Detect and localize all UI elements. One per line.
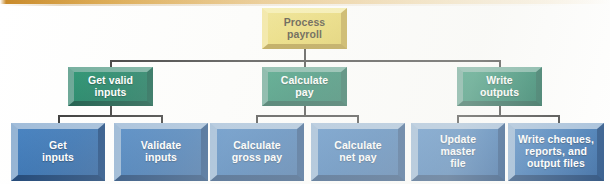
node-label: Calculate gross pay xyxy=(228,140,287,164)
node-calculate-net-pay[interactable]: Calculate net pay xyxy=(311,123,405,181)
connector-spine-group-3 xyxy=(457,115,560,117)
node-calculate-gross-pay[interactable]: Calculate gross pay xyxy=(210,123,304,181)
node-validate-inputs[interactable]: Validate inputs xyxy=(114,123,208,181)
node-calculate-pay[interactable]: Calculate pay xyxy=(262,67,347,106)
node-label: Validate inputs xyxy=(137,140,186,164)
node-process-payroll[interactable]: Process payroll xyxy=(262,8,347,49)
node-label: Write outputs xyxy=(476,75,523,99)
connector-spine-group-2 xyxy=(256,115,359,117)
top-rule-shadow xyxy=(0,4,610,6)
node-update-master-file[interactable]: Update master file xyxy=(411,123,505,181)
structure-chart-canvas: Process payroll Get valid inputs Calcula… xyxy=(0,0,610,184)
node-get-inputs[interactable]: Get inputs xyxy=(11,123,105,181)
node-label: Get inputs xyxy=(38,140,78,164)
node-get-valid-inputs[interactable]: Get valid inputs xyxy=(68,67,153,106)
node-write-outputs[interactable]: Write outputs xyxy=(457,67,542,106)
node-write-cheques-reports[interactable]: Write cheques, reports, and output files xyxy=(508,123,604,181)
node-label: Calculate pay xyxy=(277,75,333,99)
node-label: Get valid inputs xyxy=(84,75,137,99)
connector-spine-group-1 xyxy=(58,115,163,117)
node-label: Calculate net pay xyxy=(330,140,386,164)
node-label: Process payroll xyxy=(280,17,330,41)
node-label: Update master file xyxy=(436,134,480,169)
node-label: Write cheques, reports, and output files xyxy=(514,134,598,169)
